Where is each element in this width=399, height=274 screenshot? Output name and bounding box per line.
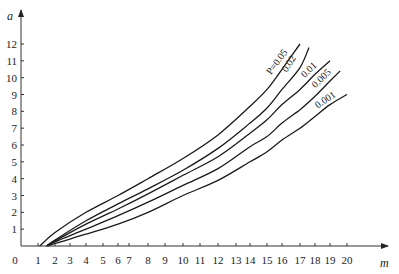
- x-tick-label: 5: [100, 254, 106, 266]
- x-tick-label: 6: [115, 254, 121, 266]
- curve-0-01: [47, 61, 331, 246]
- y-tick-label: 8: [12, 105, 18, 117]
- x-axis-label: m: [380, 256, 389, 270]
- x-tick-label: 19: [325, 254, 337, 266]
- x-tick-label: 8: [145, 254, 151, 266]
- curve-0-005: [47, 71, 341, 246]
- y-tick-label: 7: [12, 122, 18, 134]
- y-tick-label: 3: [12, 190, 18, 202]
- x-tick-label: 13: [231, 254, 243, 266]
- x-tick-label: 12: [213, 254, 224, 266]
- x-tick-label: 10: [178, 254, 190, 266]
- x-tick-label: 18: [310, 254, 322, 266]
- curve-0-001: [48, 95, 347, 247]
- x-tick-label: 11: [195, 254, 206, 266]
- x-tick-label: 7: [126, 254, 132, 266]
- y-tick-label: 4: [12, 173, 18, 185]
- axes: m a: [7, 9, 389, 270]
- x-tick-label: 1: [35, 254, 41, 266]
- y-tick-label: 9: [12, 89, 18, 101]
- y-tick-label: 11: [6, 55, 17, 67]
- chart: m a 01234567891011121314151617181920 123…: [0, 0, 399, 274]
- x-tick-label: 3: [67, 254, 73, 266]
- x-tick-label: 14: [245, 254, 257, 266]
- x-tick-label: 17: [295, 254, 307, 266]
- y-tick-label: 5: [12, 156, 18, 168]
- curve-0-02: [47, 47, 310, 246]
- y-axis-label: a: [7, 9, 13, 23]
- y-tick-label: 12: [6, 38, 17, 50]
- curve-P-0-05: [40, 44, 300, 246]
- x-tick-label: 15: [262, 254, 274, 266]
- x-tick-label: 20: [342, 254, 354, 266]
- y-tick-label: 2: [12, 206, 18, 218]
- x-tick-label: 16: [277, 254, 289, 266]
- x-tick-label: 4: [83, 254, 89, 266]
- x-tick-label: 0: [12, 254, 18, 266]
- y-tick-label: 6: [12, 139, 18, 151]
- y-tick-label: 10: [6, 72, 18, 84]
- curve-label: 0.001: [313, 89, 338, 111]
- x-tick-label: 9: [162, 254, 168, 266]
- x-tick-label: 2: [52, 254, 58, 266]
- y-tick-label: 1: [12, 223, 18, 235]
